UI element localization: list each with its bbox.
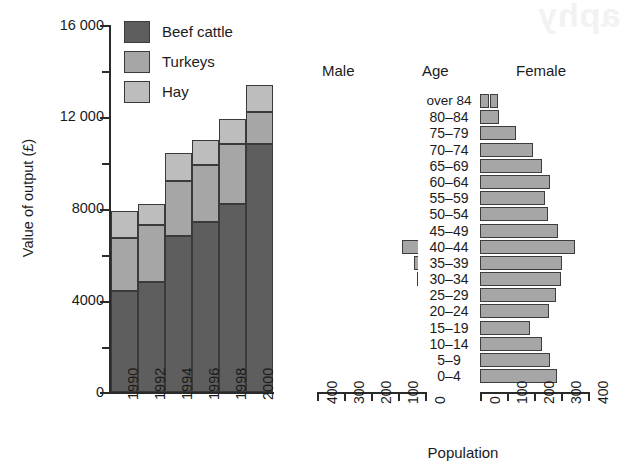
legend-swatch-hay [124, 81, 150, 103]
pyramid-row-70-74: 70–74 [300, 142, 626, 158]
pyramid-left-tick-0 [425, 392, 427, 401]
pyramid-right-tick-300 [561, 392, 563, 401]
pyramid-row-80-84: 80–84 [300, 109, 626, 125]
pyramid-bar-female-65-69[interactable] [480, 159, 542, 173]
pyramid-row-75-79: 75–79 [300, 125, 626, 141]
bar-1996-hay[interactable] [192, 140, 219, 165]
bar-1996-turkeys[interactable] [192, 165, 219, 222]
pyramid-age-label-25-29: 25–29 [418, 287, 480, 303]
bar-1990[interactable] [111, 211, 138, 392]
x-tick-1996: 1996 [206, 368, 222, 400]
pyramid-bar-female-20-24[interactable] [480, 304, 549, 318]
x-tick-1990: 1990 [125, 368, 141, 400]
pyramid-bar-female-45-49[interactable] [480, 224, 558, 238]
y-tick-12000: 12 000 [40, 108, 104, 124]
pyramid-right-label-200: 200 [541, 381, 557, 404]
pyramid-bar-male-over-84[interactable] [490, 94, 498, 108]
pyramid-age-label-50-54: 50–54 [418, 206, 480, 222]
bar-tick-12000 [100, 117, 110, 119]
bar-1992[interactable] [138, 204, 165, 392]
pyramid-left-label-300: 300 [351, 381, 367, 404]
pyramid-age-label-65-69: 65–69 [418, 158, 480, 174]
pyramid-row-45-49: 45–49 [300, 223, 626, 239]
pyramid-age-label-35-39: 35–39 [418, 255, 480, 271]
x-tick-1994: 1994 [179, 368, 195, 400]
legend-item-turkeys[interactable]: Turkeys [124, 48, 233, 75]
bar-1994[interactable] [165, 153, 192, 392]
bar-1998-turkeys[interactable] [219, 144, 246, 204]
pyramid-bar-female-70-74[interactable] [480, 143, 533, 157]
bar-chart-y-tick-labels: 16 000 12 000 8000 4000 0 [36, 0, 104, 467]
pyramid-row-20-24: 20–24 [300, 303, 626, 319]
bar-1998-hay[interactable] [219, 119, 246, 144]
legend-item-hay[interactable]: Hay [124, 78, 233, 105]
pyramid-bar-female-40-44[interactable] [480, 240, 575, 254]
pyramid-age-label-5-9: 5–9 [418, 352, 480, 368]
pyramid-header-male: Male [322, 62, 355, 79]
bar-1998-beef-cattle[interactable] [219, 204, 246, 392]
pyramid-bar-female-30-34[interactable] [480, 272, 561, 286]
pyramid-right-tick-400 [588, 392, 590, 401]
y-tick-8000: 8000 [40, 200, 104, 216]
pyramid-age-label-0-4: 0–4 [418, 368, 480, 384]
pyramid-left-tick-200 [371, 392, 373, 401]
pyramid-bar-female-50-54[interactable] [480, 207, 548, 221]
pyramid-row-60-64: 60–64 [300, 174, 626, 190]
bar-2000-beef-cattle[interactable] [246, 144, 273, 392]
pyramid-row-40-44: 40–44 [300, 239, 626, 255]
bar-tick-2000 [102, 347, 110, 349]
pyramid-age-label-40-44: 40–44 [418, 239, 480, 255]
pyramid-right-label-400: 400 [595, 381, 611, 404]
pyramid-bar-female-60-64[interactable] [480, 175, 550, 189]
pyramid-bar-female-35-39[interactable] [480, 256, 562, 270]
pyramid-bar-female-5-9[interactable] [480, 353, 550, 367]
bar-1992-turkeys[interactable] [138, 225, 165, 282]
legend-item-beef-cattle[interactable]: Beef cattle [124, 18, 233, 45]
x-tick-1998: 1998 [233, 368, 249, 400]
pyramid-bar-female-75-79[interactable] [480, 126, 516, 140]
bar-1996-beef-cattle[interactable] [192, 222, 219, 392]
pyramid-row-25-29: 25–29 [300, 287, 626, 303]
bar-1990-turkeys[interactable] [111, 238, 138, 291]
pyramid-row-5-9: 5–9 [300, 352, 626, 368]
legend-swatch-turkeys [124, 51, 150, 73]
bar-tick-16000 [100, 25, 110, 27]
pyramid-bar-female-15-19[interactable] [480, 321, 530, 335]
pyramid-row-over-84: over 84 [300, 93, 626, 109]
bar-1994-hay[interactable] [165, 153, 192, 181]
pyramid-bar-female-80-84[interactable] [480, 110, 499, 124]
pyramid-row-55-59: 55–59 [300, 190, 626, 206]
x-tick-2000: 2000 [260, 368, 276, 400]
bar-2000-hay[interactable] [246, 85, 273, 112]
pyramid-age-label-20-24: 20–24 [418, 303, 480, 319]
pyramid-right-label-100: 100 [514, 381, 530, 404]
pyramid-left-tick-100 [398, 392, 400, 401]
pyramid-bar-female-25-29[interactable] [480, 288, 556, 302]
bar-1992-hay[interactable] [138, 204, 165, 225]
pyramid-bar-female-55-59[interactable] [480, 191, 545, 205]
bar-chart-legend: Beef cattle Turkeys Hay [124, 18, 233, 108]
pyramid-bar-female-over-84[interactable] [480, 94, 489, 108]
bar-2000-turkeys[interactable] [246, 112, 273, 144]
legend-label-turkeys: Turkeys [162, 53, 215, 70]
pyramid-left-label-0: 0 [432, 396, 448, 404]
pyramid-age-label-15-19: 15–19 [418, 320, 480, 336]
bar-1996[interactable] [192, 140, 219, 392]
bar-chart-y-axis-title: Value of output (£) [20, 98, 36, 298]
pyramid-right-label-0: 0 [487, 396, 503, 404]
bar-tick-0 [100, 392, 110, 394]
pyramid-left-label-100: 100 [405, 381, 421, 404]
pyramid-age-label-55-59: 55–59 [418, 190, 480, 206]
bar-1994-turkeys[interactable] [165, 181, 192, 236]
pyramid-row-65-69: 65–69 [300, 158, 626, 174]
pyramid-bar-female-10-14[interactable] [480, 337, 542, 351]
y-tick-0: 0 [40, 384, 104, 400]
pyramid-age-label-75-79: 75–79 [418, 125, 480, 141]
pyramid-left-tick-300 [344, 392, 346, 401]
bar-1990-hay[interactable] [111, 211, 138, 238]
pyramid-right-tick-100 [507, 392, 509, 401]
bar-tick-14000 [102, 71, 110, 73]
pyramid-left-label-200: 200 [378, 381, 394, 404]
bar-2000[interactable] [246, 85, 273, 392]
bar-1998[interactable] [219, 119, 246, 392]
